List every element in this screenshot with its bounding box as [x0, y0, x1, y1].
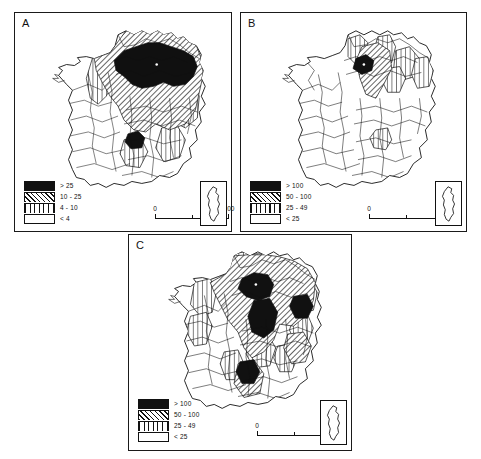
legend-swatch-vertical-lines — [250, 203, 281, 213]
legend-row: 25 - 49 — [138, 420, 199, 431]
legend-row: 4 - 10 — [24, 202, 82, 213]
figure-container: A — [0, 0, 481, 459]
legend-swatch-solid-black — [24, 181, 55, 191]
legend-swatch-solid-black — [250, 181, 281, 191]
legend-row: > 25 — [24, 180, 82, 191]
legend-swatch-diagonal-hatch — [138, 410, 169, 420]
legend-label: 25 - 49 — [286, 203, 308, 213]
legend-swatch-diagonal-hatch — [24, 192, 55, 202]
legend-row: < 4 — [24, 213, 82, 224]
legend-swatch-vertical-lines — [138, 421, 169, 431]
legend-swatch-diagonal-hatch — [250, 192, 281, 202]
panel-b: B — [240, 12, 467, 232]
legend-label: 10 - 25 — [60, 192, 82, 202]
scale-line — [369, 214, 443, 219]
legend-label: 25 - 49 — [174, 421, 196, 431]
corsica-outline — [321, 401, 346, 444]
corsica-inset-b — [435, 181, 462, 226]
panel-a: A — [14, 12, 232, 232]
legend-swatch-white — [24, 214, 55, 224]
legend-swatch-solid-black — [138, 399, 169, 409]
corsica-inset-c — [320, 400, 347, 445]
legend-b: > 100 50 - 100 25 - 49 < 25 — [250, 180, 311, 224]
corsica-outline — [436, 182, 461, 225]
panel-c: C — [128, 234, 352, 451]
legend-label: 50 - 100 — [286, 192, 311, 202]
legend-label: > 100 — [286, 181, 303, 191]
legend-swatch-vertical-lines — [24, 203, 55, 213]
legend-row: 50 - 100 — [250, 191, 311, 202]
legend-swatch-white — [138, 432, 169, 442]
legend-row: 25 - 49 — [250, 202, 311, 213]
legend-label: > 100 — [174, 399, 191, 409]
scalebar-b: 0 200 — [369, 205, 443, 219]
legend-c: > 100 50 - 100 25 - 49 < 25 — [138, 398, 199, 442]
legend-label: 50 - 100 — [174, 410, 199, 420]
legend-label: < 25 — [174, 432, 188, 442]
corsica-outline — [201, 182, 226, 225]
legend-label: < 25 — [286, 214, 300, 224]
corsica-inset-a — [200, 181, 227, 226]
scale-min-label: 0 — [255, 422, 259, 429]
legend-row: < 25 — [250, 213, 311, 224]
legend-row: > 100 — [138, 398, 199, 409]
legend-row: < 25 — [138, 431, 199, 442]
legend-label: > 25 — [60, 181, 74, 191]
legend-a: > 25 10 - 25 4 - 10 < 4 — [24, 180, 82, 224]
scale-min-label: 0 — [367, 205, 371, 212]
legend-row: 10 - 25 — [24, 191, 82, 202]
legend-label: < 4 — [60, 214, 70, 224]
legend-row: > 100 — [250, 180, 311, 191]
scale-min-label: 0 — [153, 205, 157, 212]
legend-row: 50 - 100 — [138, 409, 199, 420]
legend-label: 4 - 10 — [60, 203, 78, 213]
legend-swatch-white — [250, 214, 281, 224]
